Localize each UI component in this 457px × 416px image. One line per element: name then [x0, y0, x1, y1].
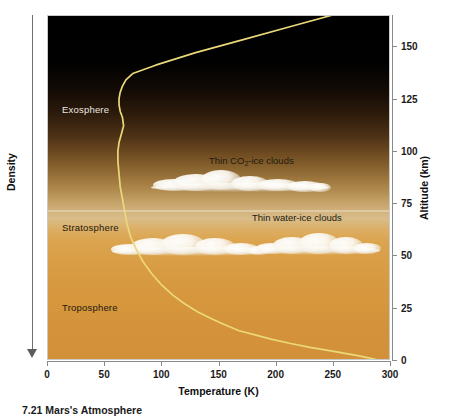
x-tick-label-200: 200 — [267, 369, 284, 380]
stratosphere-label: Stratosphere — [62, 222, 119, 233]
y-tick-label-0: 0 — [401, 355, 407, 366]
x-axis-title: Temperature (K) — [47, 385, 390, 397]
y-axis-line — [392, 15, 393, 361]
x-tick-label-0: 0 — [44, 369, 50, 380]
y-tick-label-75: 75 — [401, 198, 412, 209]
density-axis-title: Density — [5, 153, 17, 191]
y-tick-label-100: 100 — [401, 145, 418, 156]
figure-caption: 7.21 Mars's Atmosphere — [22, 404, 142, 416]
exosphere-label: Exosphere — [62, 104, 109, 115]
y-tick-label-25: 25 — [401, 302, 412, 313]
co2-ice-clouds-label: Thin CO2-ice clouds — [209, 155, 294, 167]
x-tick-label-250: 250 — [324, 369, 341, 380]
x-axis-line — [47, 361, 390, 362]
x-tick-label-100: 100 — [153, 369, 170, 380]
water-ice-clouds-label: Thin water-ice clouds — [252, 212, 342, 223]
x-tick-label-300: 300 — [382, 369, 399, 380]
co2-ice-clouds-label-prefix: Thin CO — [209, 155, 244, 166]
x-tick-label-50: 50 — [99, 369, 110, 380]
x-tick-300 — [390, 361, 391, 366]
plot-area: Exosphere Stratosphere Troposphere Thin … — [47, 15, 390, 360]
density-axis-line — [32, 15, 33, 351]
y-axis-title: Altitude (km) — [418, 156, 430, 220]
y-tick-label-50: 50 — [401, 250, 412, 261]
x-tick-label-150: 150 — [210, 369, 227, 380]
density-arrow-icon — [27, 349, 37, 358]
y-tick-label-150: 150 — [401, 41, 418, 52]
y-tick-label-125: 125 — [401, 93, 418, 104]
troposphere-label: Troposphere — [62, 302, 118, 313]
density-axis — [22, 15, 42, 360]
co2-ice-clouds-label-suffix: -ice clouds — [248, 155, 293, 166]
